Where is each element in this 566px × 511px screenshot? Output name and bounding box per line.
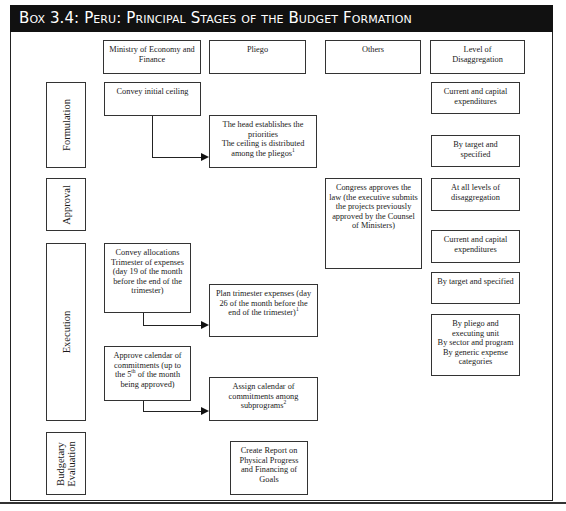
level-item: At all levels of disaggregation: [431, 178, 520, 211]
footnote-1: 1: [292, 147, 295, 153]
node-convey-allocations: Convey allocations Trimester of expenses…: [104, 243, 191, 313]
connector-line: [143, 411, 202, 412]
stage-approval-label: Approval: [61, 185, 72, 225]
stage-approval: Approval: [46, 178, 86, 231]
stage-budgetary-evaluation: Budgetary Evaluation: [46, 432, 86, 495]
level-item: By target and specified: [431, 135, 520, 167]
column-header-others: Others: [325, 40, 421, 74]
node-head-establishes-priorities: The head establishes the priorities The …: [209, 115, 317, 168]
column-header-ministry: Ministry of Economy and Finance: [103, 40, 201, 74]
connector-line: [152, 157, 202, 158]
footnote-2: 2: [284, 399, 287, 405]
stage-formulation: Formulation: [46, 82, 86, 168]
connector-line: [143, 401, 144, 411]
level-item: Current and capital expenditures: [431, 82, 520, 114]
arrowhead-icon: [201, 407, 209, 415]
box-title: Box 3.4: Peru: Principal Stages of the B…: [10, 5, 553, 32]
footnote-1: 1: [296, 306, 299, 312]
stage-budgetary-evaluation-label: Budgetary Evaluation: [55, 441, 77, 487]
column-header-level: Level of Disaggregation: [430, 40, 525, 74]
level-item: By target and specified: [431, 272, 520, 304]
connector-line: [143, 325, 202, 326]
node-create-report: Create Report on Physical Progress and F…: [230, 441, 308, 495]
arrowhead-icon: [201, 321, 209, 329]
node-assign-text: Assign calendar of commitments among sub…: [229, 382, 299, 410]
connector-line: [152, 116, 153, 158]
arrowhead-icon: [201, 153, 209, 161]
level-item: Current and capital expenditures: [431, 230, 520, 263]
node-convey-initial-ceiling: Convey initial ceiling: [104, 82, 201, 116]
node-assign-calendar: Assign calendar of commitments among sub…: [209, 377, 318, 421]
level-item: By pliego and executing unit By sector a…: [431, 314, 520, 376]
connector-line: [143, 313, 144, 325]
stage-execution: Execution: [46, 243, 86, 421]
stage-execution-label: Execution: [61, 311, 72, 354]
column-header-pliego: Pliego: [209, 40, 306, 74]
node-plan-text: Plan trimester expenses (day 26 of the m…: [216, 289, 311, 317]
node-congress-approves-law: Congress approves the law (the executive…: [325, 178, 422, 269]
node-plan-trimester-expenses: Plan trimester expenses (day 26 of the m…: [209, 284, 318, 337]
footer-rule: [0, 502, 566, 504]
node-approve-calendar: Approve calendar of commitments (up to t…: [104, 346, 191, 401]
stage-formulation-label: Formulation: [61, 99, 72, 151]
